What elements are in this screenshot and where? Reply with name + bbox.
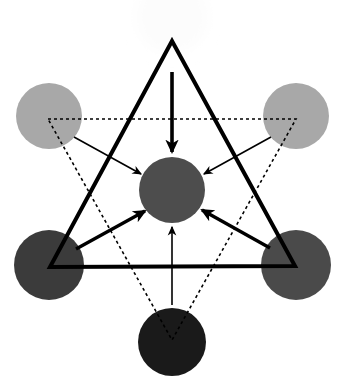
node-circle-top-right: [263, 83, 329, 149]
node-circle-bottom: [138, 308, 206, 376]
hexagram-diagram: [0, 0, 344, 386]
node-circle-top-left: [16, 83, 82, 149]
node-circle-center: [139, 157, 205, 223]
diagram-canvas: [0, 0, 344, 386]
